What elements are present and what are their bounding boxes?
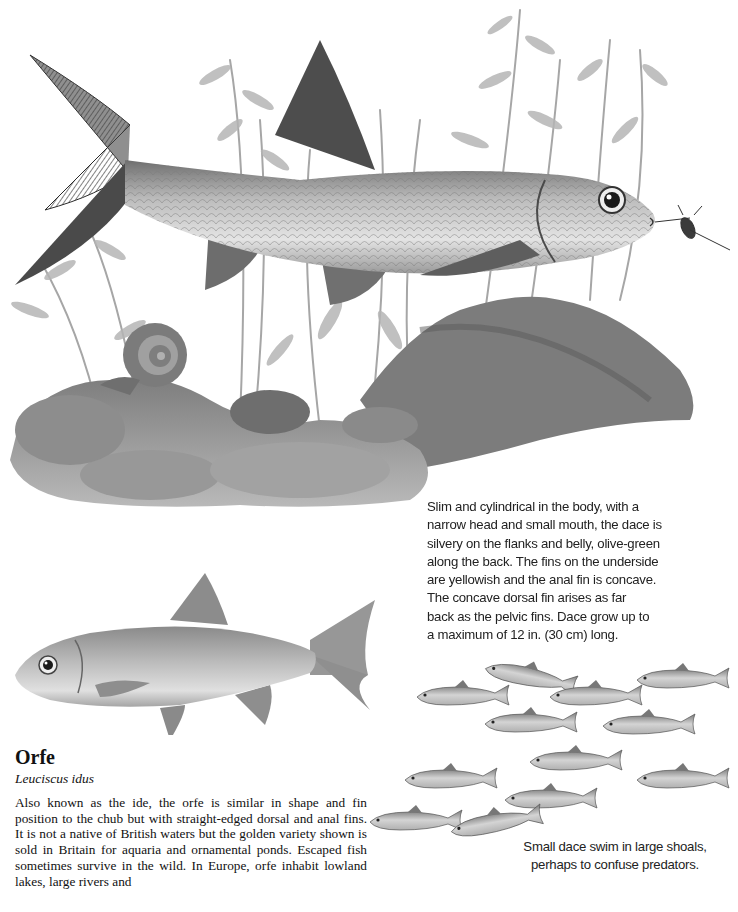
orfe-fish-illustration xyxy=(0,565,400,735)
dace-description: Slim and cylindrical in the body, with a… xyxy=(427,498,738,644)
text-line: silvery on the flanks and belly, olive-g… xyxy=(427,535,738,553)
shoal-caption: Small dace swim in large shoals, perhaps… xyxy=(495,838,735,875)
dace-shoal-illustration xyxy=(355,650,738,850)
text-line: Small dace swim in large shoals, xyxy=(495,838,735,856)
text-line: a maximum of 12 in. (30 cm) long. xyxy=(427,626,738,644)
text-line: are yellowish and the anal fin is concav… xyxy=(427,571,738,589)
orfe-body: Also known as the ide, the orfe is simil… xyxy=(15,795,367,889)
text-line: along the back. The fins on the undersid… xyxy=(427,553,738,571)
orfe-latin-name: Leuciscus idus xyxy=(15,770,367,788)
orfe-entry: Orfe Leuciscus idus Also known as the id… xyxy=(15,746,367,889)
dace-main-illustration xyxy=(0,0,738,520)
water-beetle-icon xyxy=(655,205,730,250)
text-line: perhaps to confuse predators. xyxy=(495,856,735,874)
text-line: narrow head and small mouth, the dace is xyxy=(427,516,738,534)
text-line: Slim and cylindrical in the body, with a xyxy=(427,498,738,516)
text-line: back as the pelvic fins. Dace grow up to xyxy=(427,608,738,626)
orfe-title: Orfe xyxy=(15,746,367,768)
text-line: The concave dorsal fin arises as far xyxy=(427,589,738,607)
